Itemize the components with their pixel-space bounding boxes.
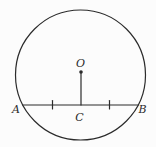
label-point-c: C [75, 111, 84, 124]
circle-chord-diagram: O A B C [0, 0, 156, 147]
geometry-figure: O A B C [0, 0, 156, 147]
label-point-b: B [137, 103, 146, 116]
center-point-dot [79, 70, 83, 74]
label-center-o: O [76, 57, 85, 70]
label-point-a: A [11, 103, 20, 116]
